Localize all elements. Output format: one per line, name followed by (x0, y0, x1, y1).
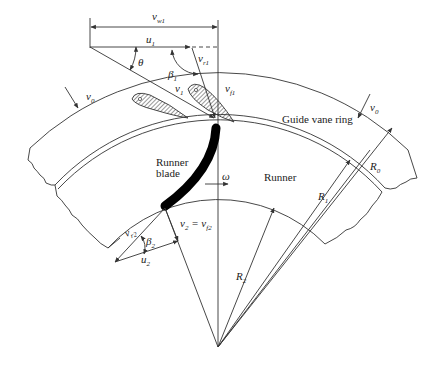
left-break-inner (57, 196, 120, 248)
label-vf1: vf1 (225, 82, 235, 97)
runner-inner-arc (108, 200, 325, 248)
turbine-diagram: vw1 u1 θ β1 vr1 v1 vf1 v0 v0 Guide vane … (0, 0, 441, 365)
label-beta2: β2 (145, 235, 155, 250)
label-v0-right: v0 (370, 101, 379, 116)
label-vw1: vw1 (152, 10, 165, 25)
v2-vector (165, 208, 178, 241)
label-vr1: vr1 (198, 52, 209, 67)
guide-vane-right-pivot (194, 88, 197, 91)
right-break-inner (325, 192, 382, 244)
label-beta1: β1 (167, 68, 177, 83)
right-break-outer (385, 150, 417, 189)
v0-left-arrow (65, 87, 78, 108)
label-v1: v1 (175, 82, 183, 97)
label-R0: R0 (369, 160, 381, 175)
beta2-arc (141, 236, 145, 254)
label-v0-left: v0 (86, 90, 95, 105)
theta-arc (130, 47, 136, 70)
label-v2-eq-vf2: v2 = vf2 (180, 217, 212, 232)
label-theta: θ (138, 56, 144, 68)
left-edge-connector (55, 185, 57, 196)
left-break-outer (28, 148, 55, 185)
label-u2: u2 (141, 253, 151, 268)
guide-vane-left-pivot (138, 97, 141, 100)
label-R1: R1 (317, 190, 328, 205)
label-runner-blade-2: blade (156, 167, 180, 179)
v0-right-arrow (358, 94, 370, 118)
label-omega: ω (222, 170, 230, 182)
label-guide-vane-ring: Guide vane ring (282, 113, 353, 125)
label-R2: R2 (235, 270, 247, 285)
label-u1: u1 (146, 33, 155, 48)
label-runner: Runner (264, 171, 297, 183)
